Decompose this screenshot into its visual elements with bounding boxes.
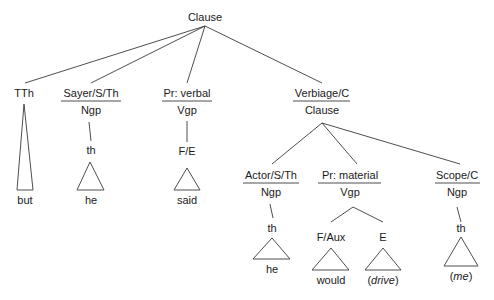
node-scope: Scope/C Ngp th (me)	[435, 169, 480, 282]
e-leaf-word: (drive)	[367, 274, 398, 286]
node-tth: TTh but	[14, 87, 34, 206]
scope-function-label: Scope/C	[436, 169, 478, 181]
root-clause-label: Clause	[188, 11, 222, 23]
node-pr-material: Pr: material Vgp F/Aux would E (drive)	[312, 169, 401, 286]
actor-triangle	[253, 238, 290, 259]
tth-triangle	[17, 104, 33, 190]
tth-function-label: TTh	[14, 87, 34, 99]
node-pr-verbal: Pr: verbal Vgp F/E said	[162, 87, 212, 206]
pr-verbal-leaf-word: said	[177, 194, 197, 206]
actor-leaf-word: he	[266, 263, 278, 275]
pr-verbal-triangle	[174, 168, 200, 190]
pr-material-function-label: Pr: material	[322, 169, 378, 181]
actor-head-label: th	[267, 222, 276, 234]
sayer-head-label: th	[86, 144, 95, 156]
pr-material-class-label: Vgp	[340, 186, 360, 198]
sayer-leaf-word: he	[85, 194, 97, 206]
actor-class-label: Ngp	[261, 186, 281, 198]
node-actor: Actor/S/Th Ngp th he	[243, 169, 299, 275]
node-verbiage: Verbiage/C Clause	[272, 87, 460, 164]
scope-leaf-word: (me)	[450, 270, 473, 282]
syntax-tree-diagram: Clause TTh but Sayer/S/Th Ngp th he Pr: …	[0, 0, 494, 300]
scope-triangle	[444, 237, 478, 266]
actor-function-label: Actor/S/Th	[245, 169, 297, 181]
tth-leaf-word: but	[17, 194, 32, 206]
sayer-triangle	[77, 162, 104, 190]
root-branches	[25, 26, 322, 83]
verbiage-class-label: Clause	[305, 104, 339, 116]
pr-verbal-head-label: F/E	[178, 145, 195, 157]
f-aux-leaf-word: would	[316, 274, 346, 286]
node-sayer: Sayer/S/Th Ngp th he	[61, 87, 121, 206]
e-label: E	[379, 231, 386, 243]
verbiage-branches	[272, 123, 460, 164]
pr-verbal-class-label: Vgp	[177, 104, 197, 116]
scope-head-label: th	[456, 222, 465, 234]
scope-class-label: Ngp	[447, 186, 467, 198]
sayer-function-label: Sayer/S/Th	[63, 87, 118, 99]
f-aux-triangle	[312, 248, 349, 270]
verbiage-function-label: Verbiage/C	[295, 87, 349, 99]
pr-verbal-function-label: Pr: verbal	[163, 87, 210, 99]
e-triangle	[365, 248, 401, 270]
sayer-class-label: Ngp	[81, 104, 101, 116]
f-aux-label: F/Aux	[317, 231, 346, 243]
